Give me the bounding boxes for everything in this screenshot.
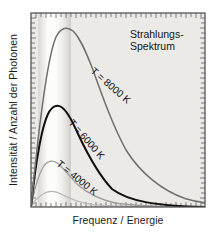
x-axis-label: Frequenz / Energie bbox=[72, 214, 163, 226]
radiation-spectrum-figure: Strahlungs- Spektrum T = 8000 K T = 6000… bbox=[0, 0, 215, 237]
chart-title-line2: Spektrum bbox=[130, 40, 175, 52]
y-axis-label: Intensität / Anzahl der Photonen bbox=[7, 34, 19, 186]
chart-title-line1: Strahlungs- bbox=[130, 28, 184, 40]
